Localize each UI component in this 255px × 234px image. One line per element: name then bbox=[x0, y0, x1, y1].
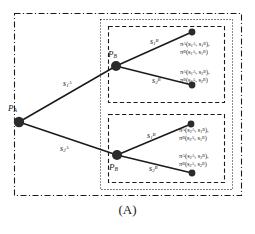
payoff-terminal-21: πA(s2A, s1B), πB(s2A, s1B) bbox=[179, 126, 209, 142]
node-label-root-pa: PA bbox=[8, 104, 17, 114]
figure-caption: (A) bbox=[0, 202, 255, 218]
payoff-terminal-12-line2: πB(s1A, s2B) bbox=[180, 76, 210, 84]
game-tree-figure: PA PB PB s1A s2A s1B s2B s1B s2B πA(s1A,… bbox=[0, 0, 255, 234]
node-label-lower-pb: PB bbox=[109, 163, 118, 173]
edge-label-lower-first: s1B bbox=[147, 132, 156, 141]
game-tree-canvas bbox=[0, 0, 255, 234]
edge-label-lower-second: s2B bbox=[149, 165, 158, 174]
node-terminal-22 bbox=[189, 170, 196, 177]
payoff-terminal-11: πA(s1A, s1B), πB(s1A, s1B) bbox=[180, 40, 210, 56]
payoff-terminal-12-line1: πA(s1A, s2B), bbox=[180, 68, 210, 76]
middle-box bbox=[101, 20, 233, 190]
payoff-terminal-11-line2: πB(s1A, s1B) bbox=[180, 48, 210, 56]
payoff-terminal-21-line2: πB(s2A, s1B) bbox=[179, 134, 209, 142]
edge-label-root-lower: s2A bbox=[60, 145, 69, 154]
payoff-terminal-22-line2: πB(s2A, s2B) bbox=[179, 160, 209, 168]
edge-label-upper-first: s1B bbox=[150, 38, 159, 47]
node-root-pa bbox=[14, 117, 24, 127]
payoff-terminal-22-line1: πA(s2A, s2B), bbox=[179, 152, 209, 160]
node-upper-pb bbox=[111, 61, 121, 71]
payoff-terminal-21-line1: πA(s2A, s1B), bbox=[179, 126, 209, 134]
payoff-terminal-11-line1: πA(s1A, s1B), bbox=[180, 40, 210, 48]
branch-root-to-upper bbox=[19, 66, 116, 122]
inner-box-lower bbox=[109, 115, 225, 183]
node-terminal-11 bbox=[189, 29, 196, 36]
edge-label-root-upper: s1A bbox=[63, 80, 72, 89]
edge-label-upper-second: s2B bbox=[152, 77, 161, 86]
payoff-terminal-12: πA(s1A, s2B), πB(s1A, s2B) bbox=[180, 68, 210, 84]
node-lower-pb bbox=[112, 150, 122, 160]
node-label-upper-pb: PB bbox=[108, 50, 117, 60]
inner-box-upper bbox=[109, 27, 225, 103]
payoff-terminal-22: πA(s2A, s2B), πB(s2A, s2B) bbox=[179, 152, 209, 168]
